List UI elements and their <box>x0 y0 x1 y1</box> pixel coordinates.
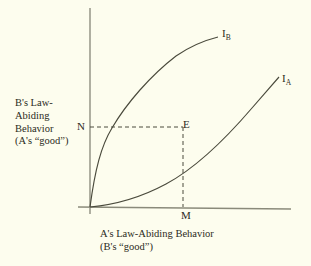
y-axis-title-line-3: Behavior <box>15 123 54 134</box>
indifference-curve-figure: B's Law-AbidingBehavior(A's “good”) A's … <box>0 0 311 266</box>
x-axis-title: A's Law-Abiding Behavior(B's “good”) <box>100 228 250 254</box>
axis-label-n: N <box>77 120 85 133</box>
y-axis-title-line-2: Abiding <box>15 110 49 121</box>
curve-ia <box>90 77 279 207</box>
point-label-e: E <box>183 118 190 131</box>
y-axis-title-line-1: B's Law- <box>15 97 53 108</box>
curve-label-ia-subscript: A <box>286 78 291 87</box>
curve-ib <box>90 37 218 207</box>
x-axis-title-line-1: A's Law-Abiding Behavior <box>100 228 214 239</box>
curve-label-ib: IB <box>222 27 231 42</box>
axis-label-m: M <box>181 209 191 222</box>
x-axis-title-line-2: (B's “good”) <box>100 241 153 252</box>
curve-label-ib-subscript: B <box>226 33 231 42</box>
curve-label-ia: IA <box>282 72 291 87</box>
y-axis-title-line-4: (A's “good”) <box>15 135 69 146</box>
